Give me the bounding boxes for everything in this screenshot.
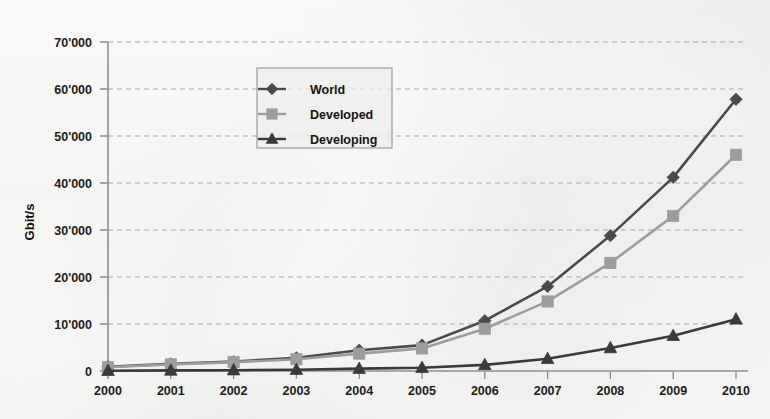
x-tick-label: 2005	[408, 384, 436, 398]
y-tick-label: 60'000	[54, 83, 92, 97]
series-world	[102, 93, 742, 373]
legend: WorldDevelopedDeveloping	[257, 68, 392, 148]
x-axis-tick-labels: 2000200120022003200420052006200720082009…	[94, 384, 750, 398]
line-chart: 010'00020'00030'00040'00050'00060'00070'…	[0, 0, 770, 419]
series-line	[108, 99, 736, 367]
gridlines	[108, 42, 746, 324]
square-marker-icon	[730, 149, 741, 160]
y-tick-label: 70'000	[54, 36, 92, 50]
series-line	[108, 155, 736, 367]
square-marker-icon	[668, 210, 679, 221]
x-tick-label: 2001	[157, 384, 185, 398]
x-tick-label: 2000	[94, 384, 122, 398]
chart-svg: 010'00020'00030'00040'00050'00060'00070'…	[0, 0, 770, 419]
y-axis-title: Gbit/s	[22, 204, 37, 241]
x-tick-label: 2003	[282, 384, 310, 398]
y-tick-label: 50'000	[54, 130, 92, 144]
square-marker-icon	[416, 343, 427, 354]
x-tick-label: 2006	[471, 384, 499, 398]
legend-item: Developed	[258, 108, 373, 122]
x-tick-label: 2008	[596, 384, 624, 398]
y-tick-label: 20'000	[54, 271, 92, 285]
triangle-marker-icon	[730, 313, 743, 324]
x-tick-label: 2004	[345, 384, 373, 398]
data-series-layer	[102, 93, 743, 375]
square-marker-icon	[267, 109, 277, 119]
legend-label: World	[310, 83, 345, 97]
square-marker-icon	[479, 323, 490, 334]
y-tick-label: 40'000	[54, 177, 92, 191]
x-tick-label: 2010	[722, 384, 750, 398]
legend-label: Developing	[310, 133, 377, 147]
square-marker-icon	[354, 348, 365, 359]
y-axis-tick-labels: 010'00020'00030'00040'00050'00060'00070'…	[54, 36, 92, 379]
x-tick-label: 2007	[534, 384, 562, 398]
square-marker-icon	[605, 257, 616, 268]
y-axis-ticks	[100, 42, 108, 371]
x-tick-label: 2002	[220, 384, 248, 398]
x-tick-label: 2009	[659, 384, 687, 398]
square-marker-icon	[542, 296, 553, 307]
y-tick-label: 30'000	[54, 224, 92, 238]
legend-label: Developed	[310, 108, 373, 122]
y-tick-label: 10'000	[54, 318, 92, 332]
y-tick-label: 0	[85, 365, 92, 379]
